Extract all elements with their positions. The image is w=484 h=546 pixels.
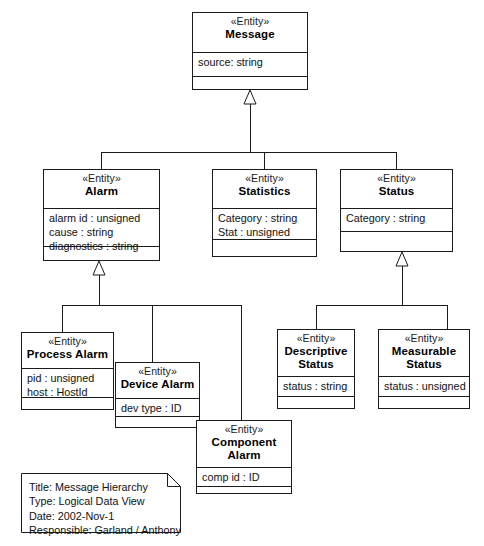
class-name-device-alarm: Device Alarm — [118, 378, 197, 391]
class-header-message: «Entity»Message — [193, 13, 307, 53]
class-box-process-alarm[interactable]: «Entity»Process Alarmpid : unsignedhost … — [21, 332, 114, 410]
class-name-line: Alarm — [46, 185, 157, 198]
note-line: Type: Logical Data View — [29, 494, 175, 508]
class-name-line: Measurable — [381, 345, 467, 358]
class-operations-message — [193, 77, 307, 89]
class-name-line: Alarm — [199, 449, 289, 462]
class-attributes-alarm: alarm id : unsignedcause : stringdiagnos… — [44, 209, 159, 247]
class-attribute: alarm id : unsigned — [49, 212, 154, 226]
generalization-triangle — [244, 90, 256, 104]
class-attribute: diagnostics : string — [49, 240, 154, 254]
class-name-measurable-status: MeasurableStatus — [381, 345, 467, 371]
class-name-line: Status — [343, 185, 450, 198]
class-header-process-alarm: «Entity»Process Alarm — [22, 333, 113, 369]
class-attributes-message: source: string — [193, 53, 307, 77]
class-name-line: Descriptive — [280, 345, 352, 358]
class-box-component-alarm[interactable]: «Entity»ComponentAlarmcomp id : ID — [196, 420, 292, 494]
class-name-alarm: Alarm — [46, 185, 157, 198]
class-name-statistics: Statistics — [215, 185, 314, 198]
class-attribute: status : unsigned — [384, 380, 464, 394]
class-attribute: cause : string — [49, 226, 154, 240]
class-header-device-alarm: «Entity»Device Alarm — [116, 363, 199, 399]
class-operations-device-alarm — [116, 417, 199, 427]
class-operations-component-alarm — [197, 487, 291, 493]
stereotype-label: «Entity» — [46, 173, 157, 185]
generalization-gen-message — [101, 90, 396, 169]
class-header-statistics: «Entity»Statistics — [213, 170, 316, 209]
class-attribute: Stat : unsigned — [218, 226, 311, 240]
class-attribute: Category : string — [218, 212, 311, 226]
class-attribute: dev type : ID — [121, 402, 194, 416]
class-box-status[interactable]: «Entity»StatusCategory : string — [340, 169, 453, 252]
class-attributes-status: Category : string — [341, 209, 452, 232]
diagram-note[interactable]: Title: Message HierarchyType: Logical Da… — [21, 473, 181, 533]
class-name-component-alarm: ComponentAlarm — [199, 436, 289, 462]
stereotype-label: «Entity» — [199, 424, 289, 436]
class-box-statistics[interactable]: «Entity»StatisticsCategory : stringStat … — [212, 169, 317, 257]
stereotype-label: «Entity» — [381, 333, 467, 345]
note-line: Responsible: Garland / Anthony — [29, 523, 175, 537]
class-name-message: Message — [195, 28, 305, 41]
class-operations-status — [341, 232, 452, 251]
generalization-gen-status — [316, 252, 447, 329]
uml-class-diagram-canvas: «Entity»Messagesource: string«Entity»Ala… — [0, 0, 484, 546]
class-header-measurable-status: «Entity»MeasurableStatus — [379, 330, 469, 377]
class-box-descriptive-status[interactable]: «Entity»DescriptiveStatusstatus : string — [277, 329, 355, 409]
class-box-message[interactable]: «Entity»Messagesource: string — [192, 12, 308, 90]
class-box-alarm[interactable]: «Entity»Alarmalarm id : unsignedcause : … — [43, 169, 160, 261]
stereotype-label: «Entity» — [280, 333, 352, 345]
stereotype-label: «Entity» — [24, 336, 111, 348]
class-attributes-statistics: Category : stringStat : unsigned — [213, 209, 316, 240]
class-operations-process-alarm — [22, 398, 113, 409]
stereotype-label: «Entity» — [215, 173, 314, 185]
class-name-status: Status — [343, 185, 450, 198]
stereotype-label: «Entity» — [118, 366, 197, 378]
class-operations-descriptive-status — [278, 397, 354, 408]
class-name-line: Component — [199, 436, 289, 449]
class-name-line: Statistics — [215, 185, 314, 198]
class-name-process-alarm: Process Alarm — [24, 348, 111, 361]
class-attributes-process-alarm: pid : unsignedhost : HostId — [22, 369, 113, 398]
class-operations-statistics — [213, 240, 316, 256]
class-header-descriptive-status: «Entity»DescriptiveStatus — [278, 330, 354, 377]
class-name-line: Status — [280, 358, 352, 371]
class-attribute: Category : string — [346, 212, 447, 226]
class-header-alarm: «Entity»Alarm — [44, 170, 159, 209]
class-attribute: comp id : ID — [202, 471, 286, 485]
note-line: Date: 2002-Nov-1 — [29, 509, 175, 523]
class-attributes-descriptive-status: status : string — [278, 377, 354, 397]
stereotype-label: «Entity» — [195, 16, 305, 28]
stereotype-label: «Entity» — [343, 173, 450, 185]
class-attribute: status : string — [283, 380, 349, 394]
class-attribute: source: string — [198, 56, 302, 70]
class-attribute: pid : unsigned — [27, 372, 108, 386]
class-header-status: «Entity»Status — [341, 170, 452, 209]
class-name-line: Message — [195, 28, 305, 41]
class-attributes-measurable-status: status : unsigned — [379, 377, 469, 397]
class-name-line: Device Alarm — [118, 378, 197, 391]
class-name-line: Process Alarm — [24, 348, 111, 361]
class-attributes-device-alarm: dev type : ID — [116, 399, 199, 417]
class-attributes-component-alarm: comp id : ID — [197, 468, 291, 487]
class-name-descriptive-status: DescriptiveStatus — [280, 345, 352, 371]
generalization-triangle — [93, 261, 105, 275]
class-box-device-alarm[interactable]: «Entity»Device Alarmdev type : ID — [115, 362, 200, 428]
class-operations-measurable-status — [379, 397, 469, 408]
generalization-triangle — [396, 252, 408, 266]
note-line: Title: Message Hierarchy — [29, 480, 175, 494]
class-name-line: Status — [381, 358, 467, 371]
class-box-measurable-status[interactable]: «Entity»MeasurableStatusstatus : unsigne… — [378, 329, 470, 409]
class-header-component-alarm: «Entity»ComponentAlarm — [197, 421, 291, 468]
note-text: Title: Message HierarchyType: Logical Da… — [29, 480, 175, 538]
